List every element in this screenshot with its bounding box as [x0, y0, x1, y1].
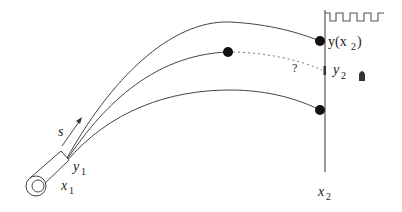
trajectory-middle: [66, 52, 228, 161]
target-mark: [324, 66, 327, 75]
svg-text:1: 1: [69, 185, 74, 196]
label-s: s: [58, 124, 64, 139]
svg-text:2: 2: [326, 191, 331, 202]
point-upper-hit: [315, 36, 325, 46]
label-x1: x 1: [60, 178, 74, 196]
svg-text:y: y: [71, 159, 80, 174]
direction-arrow: [62, 119, 81, 146]
svg-text:y: y: [331, 62, 340, 77]
svg-text:x: x: [317, 184, 325, 199]
label-question: ?: [292, 61, 297, 75]
point-middle-stop: [223, 47, 233, 57]
point-lower-hit: [315, 105, 325, 115]
arrow-head-icon: [76, 117, 82, 124]
svg-text:): ): [357, 34, 362, 50]
tower-crenellations: [325, 13, 384, 21]
svg-text:2: 2: [341, 70, 346, 81]
label-y1: y 1: [71, 159, 86, 177]
svg-text:y(x: y(x: [328, 34, 347, 50]
svg-text:x: x: [60, 178, 68, 193]
trajectory-guess-dotted: [228, 52, 322, 70]
label-y-of-x2: y(x 2 ): [328, 34, 362, 52]
svg-text:2: 2: [351, 41, 356, 52]
label-x2: x 2: [317, 184, 331, 202]
trajectory-upper: [66, 22, 320, 160]
label-y2: y 2: [331, 62, 346, 81]
tower-window-icon: [359, 71, 365, 81]
shooting-method-diagram: s y 1 x 1 x 2 y(x 2 ) y 2 ?: [0, 0, 402, 212]
svg-text:1: 1: [81, 166, 86, 177]
